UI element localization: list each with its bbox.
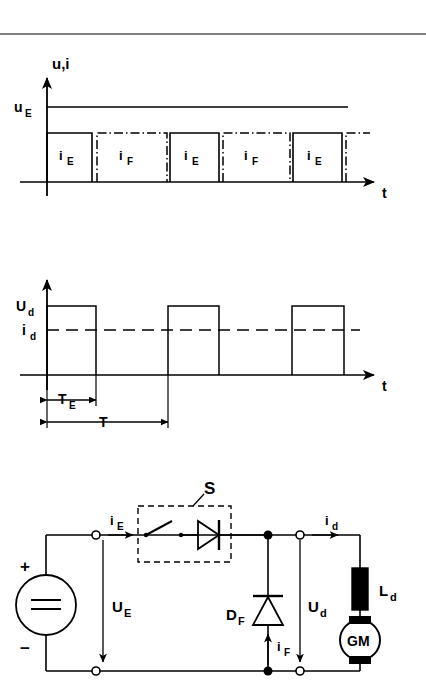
chart-2-dimension-T-base: T [99, 414, 108, 430]
figure-page: u,i t u E i E i F i E [0, 0, 426, 687]
chart-1-level-label-uE-sub: E [25, 108, 32, 119]
chart-2-level-id-sub: d [30, 331, 36, 342]
chart-1-segment-label-iF-1: i F [119, 148, 133, 167]
chart-2-pulse-1 [47, 306, 96, 375]
dc-machine: GM [340, 616, 380, 664]
smoothing-inductor: L d [352, 568, 397, 618]
chart-1-label-4-base: i [244, 148, 248, 163]
freewheel-diode-label: D F [226, 606, 245, 627]
UE-label-base: U [112, 598, 123, 615]
source-circle [16, 575, 76, 635]
freewheel-current-arrow: i F [268, 634, 290, 665]
chart-2-level-id-base: i [22, 322, 26, 338]
terminal-top-left[interactable] [92, 531, 100, 539]
chart-1-label-5-sub: E [315, 156, 322, 167]
chart-1-current-waveform: u,i t u E i E i F i E [14, 55, 387, 201]
chart-1-label-2-sub: F [127, 156, 133, 167]
chart-2-voltage-waveform: t U d i d T E T [16, 280, 387, 430]
machine-terminal-bottom [349, 656, 371, 664]
iF-label-base: i [277, 639, 281, 654]
terminal-bottom-left[interactable] [92, 667, 100, 675]
chart-1-level-label-uE-base: u [14, 99, 23, 115]
source-plus-sign: + [20, 557, 30, 576]
output-voltage-arrow: U d [300, 540, 327, 662]
chart-1-label-2-base: i [119, 148, 123, 163]
chart-1-x-axis-label: t [382, 185, 387, 201]
Ud-label-base: U [308, 598, 319, 615]
input-current-arrow: i E [108, 513, 133, 535]
DF-label-base: D [226, 606, 237, 623]
chart-1-segment-label-iF-2: i F [244, 148, 258, 167]
iE-label-sub: E [117, 521, 124, 532]
iF-label-sub: F [284, 647, 290, 658]
chart-2-dimension-T: T [47, 414, 168, 430]
id-label-base: i [325, 513, 329, 528]
source-minus-sign: − [20, 639, 30, 658]
chart-1-y-axis-label: u,i [52, 55, 70, 72]
UE-label-sub: E [124, 607, 131, 619]
inductor-body [352, 568, 368, 610]
chart-1-label-3-sub: E [192, 156, 199, 167]
chart-1-label-3-base: i [184, 148, 188, 163]
DF-label-sub: F [238, 615, 245, 627]
chart-2-dimension-TE-base: T [58, 391, 67, 407]
Ld-label-base: L [379, 582, 388, 599]
chart-1-segment-label-iE-2: i E [184, 148, 199, 167]
machine-label: GM [347, 633, 370, 649]
terminal-output-top[interactable] [296, 531, 304, 539]
chart-1-label-1-sub: E [67, 156, 74, 167]
freewheel-diode-triangle [253, 597, 283, 625]
Ud-label-sub: d [320, 607, 327, 619]
input-voltage-arrow: U E [103, 540, 131, 662]
iE-label-base: i [110, 513, 114, 528]
id-label-sub: d [332, 521, 338, 532]
chart-2-pulse-2 [168, 306, 219, 375]
chart-1-label-1-base: i [59, 148, 63, 163]
chart-2-dimension-TE: T E [47, 391, 96, 411]
chart-1-level-label-uE: u E [14, 99, 32, 119]
chart-1-label-5-base: i [307, 148, 311, 163]
switch-leader-line [193, 494, 204, 506]
chart-1-label-4-sub: F [252, 156, 258, 167]
chart-2-pulse-3 [292, 306, 344, 375]
output-current-arrow: i d [312, 513, 338, 535]
chart-2-level-label-id: i d [22, 322, 36, 342]
switch-label-text: S [204, 479, 215, 498]
terminal-output-bottom[interactable] [296, 667, 304, 675]
chart-1-segment-label-iE-1: i E [59, 148, 74, 167]
chart-2-x-axis-label: t [382, 378, 387, 394]
chart-1-segment-trailing [346, 133, 370, 182]
freewheel-diode-symbol [253, 596, 283, 625]
chart-2-level-Ud-base: U [16, 298, 26, 314]
technical-figure: u,i t u E i E i F i E [0, 0, 426, 687]
chart-2-level-Ud-sub: d [28, 307, 34, 318]
chart-1-segment-label-iE-3: i E [307, 148, 322, 167]
chart-2-level-label-Ud: U d [16, 298, 34, 318]
switch-label-S: S [193, 479, 215, 506]
chart-2-dimension-TE-sub: E [69, 400, 76, 411]
Ld-label-sub: d [390, 591, 397, 603]
circuit-diagram: + − U E i E S [16, 479, 397, 676]
switch-blade [146, 521, 172, 535]
